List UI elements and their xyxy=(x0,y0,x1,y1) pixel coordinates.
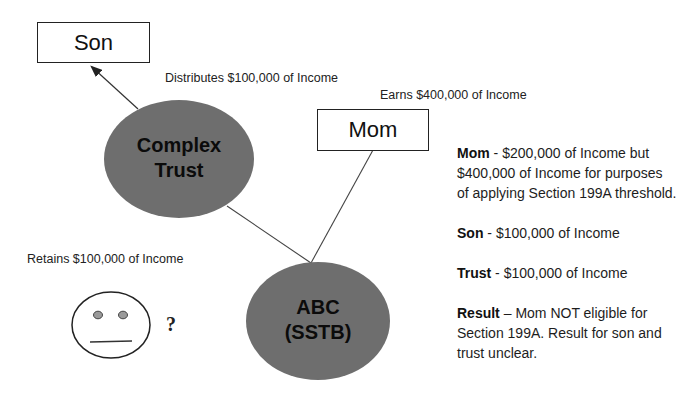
son-node: Son xyxy=(37,22,150,63)
question-mark: ? xyxy=(166,313,176,336)
abc-line2: (SSTB) xyxy=(258,320,378,345)
summary-mom: Mom - $200,000 of Income but $400,000 of… xyxy=(457,143,677,203)
earns-label: Earns $400,000 of Income xyxy=(380,88,527,102)
summary-label: Son xyxy=(457,225,483,241)
summary-text: $100,000 of Income xyxy=(496,225,620,241)
summary-sep: – xyxy=(500,305,516,321)
summary-label: Result xyxy=(457,305,500,321)
complex-trust-line1: Complex xyxy=(119,133,239,158)
summary-text: $100,000 of Income xyxy=(504,265,628,281)
abc-line1: ABC xyxy=(258,295,378,320)
summary-sep: - xyxy=(490,145,502,161)
summary-sep: - xyxy=(483,225,495,241)
summary-label: Mom xyxy=(457,145,490,161)
neutral-face-icon xyxy=(72,292,150,358)
summary-trust: Trust - $100,000 of Income xyxy=(457,263,677,283)
line-trust-to-abc xyxy=(227,206,311,263)
line-mom-to-abc xyxy=(311,150,373,263)
retains-label: Retains $100,000 of Income xyxy=(27,252,183,266)
complex-trust-line2: Trust xyxy=(119,158,239,183)
summary-son: Son - $100,000 of Income xyxy=(457,223,677,243)
trust-income-diagram: Son Mom Complex Trust ABC (SSTB) Distrib… xyxy=(0,0,678,402)
arrow-trust-to-son xyxy=(92,67,138,109)
summary-label: Trust xyxy=(457,265,491,281)
summary-result: Result – Mom NOT eligible for Section 19… xyxy=(457,303,677,363)
complex-trust-label: Complex Trust xyxy=(119,133,239,183)
summary-panel: Mom - $200,000 of Income but $400,000 of… xyxy=(457,143,677,383)
distributes-label: Distributes $100,000 of Income xyxy=(165,71,338,85)
summary-sep: - xyxy=(491,265,503,281)
abc-sstb-label: ABC (SSTB) xyxy=(258,295,378,345)
mom-node: Mom xyxy=(317,109,429,151)
